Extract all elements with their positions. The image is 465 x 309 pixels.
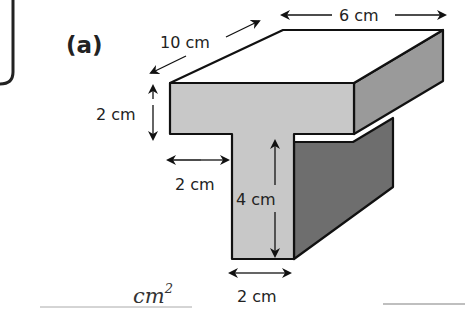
- previous-box-corner: [0, 0, 13, 84]
- stem-width-label: 2 cm: [237, 287, 277, 306]
- part-label: (a): [66, 32, 103, 58]
- t-prism-diagram: (a) 10 cm 6 cm 2 cm 2 cm 4 cm 2 cm cm2: [0, 0, 465, 309]
- stem-height-label: 4 cm: [236, 190, 276, 209]
- width-label: 6 cm: [339, 6, 379, 25]
- depth-arrow-upper: [226, 21, 259, 37]
- depth-label: 10 cm: [160, 33, 210, 52]
- stem-side-face: [294, 118, 393, 259]
- thickness-label: 2 cm: [96, 105, 136, 124]
- depth-arrow-lower: [151, 56, 186, 73]
- overhang-label: 2 cm: [175, 175, 215, 194]
- answer-unit: cm2: [133, 281, 173, 308]
